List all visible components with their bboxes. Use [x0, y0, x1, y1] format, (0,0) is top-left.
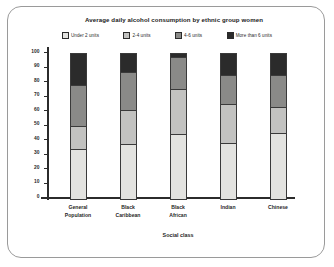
bar-segment[interactable]	[171, 58, 186, 90]
stacked-bar[interactable]	[170, 53, 187, 200]
chart-title: Average daily alcohol consumption by eth…	[0, 16, 334, 23]
bar-segment[interactable]	[221, 54, 236, 76]
bar-segment[interactable]	[171, 135, 186, 199]
legend-label: More than 6 units	[236, 33, 272, 38]
legend-item[interactable]: More than 6 units	[227, 32, 272, 39]
stacked-bar[interactable]	[220, 53, 237, 200]
legend-item[interactable]: 2-4 units	[123, 32, 150, 39]
chart-legend: Under 2 units2-4 units4-6 unitsMore than…	[62, 30, 272, 41]
y-axis-tick: 70	[44, 96, 48, 97]
y-axis-tick: 60	[44, 110, 48, 111]
y-axis-tick: 10	[44, 183, 48, 184]
x-axis-category-label-line: Population	[50, 212, 106, 220]
x-axis-category-label-line: Black	[150, 204, 206, 212]
bar-segment[interactable]	[71, 150, 86, 199]
legend-label: 4-6 units	[184, 33, 202, 38]
y-axis-line	[47, 47, 49, 200]
bar-segment[interactable]	[71, 54, 86, 86]
bar-segment[interactable]	[221, 105, 236, 144]
bar-segment[interactable]	[121, 111, 136, 146]
bar-segment[interactable]	[221, 144, 236, 199]
bar-segment[interactable]	[71, 127, 86, 150]
x-axis-category-label-line: Indian	[200, 204, 256, 212]
bar-segment[interactable]	[271, 76, 286, 108]
bar-segment[interactable]	[271, 54, 286, 76]
x-axis-category-label-line: Chinese	[250, 204, 306, 212]
legend-swatch-icon	[227, 32, 234, 39]
x-axis-category-label: GeneralPopulation	[50, 204, 106, 219]
legend-swatch-icon	[62, 32, 69, 39]
y-axis-tick-label: 100	[31, 49, 39, 54]
y-axis-tick: 100	[44, 52, 48, 53]
bar-segment[interactable]	[221, 76, 236, 105]
legend-label: Under 2 units	[71, 33, 99, 38]
x-axis-category-label: BlackAfrican	[150, 204, 206, 219]
y-axis-tick-label: 80	[34, 78, 39, 83]
x-axis-category-label-line: Black	[100, 204, 156, 212]
y-axis-tick: 40	[44, 139, 48, 140]
y-axis-tick-label: 20	[34, 165, 39, 170]
legend-item[interactable]: Under 2 units	[62, 32, 99, 39]
y-axis-tick-label: 10	[34, 179, 39, 184]
y-axis-tick-label: 50	[34, 121, 39, 126]
x-axis-category-label: Chinese	[250, 204, 306, 212]
y-axis-tick: 50	[44, 125, 48, 126]
chart-figure: Average daily alcohol consumption by eth…	[0, 0, 334, 267]
x-axis-title: Social class	[0, 232, 334, 238]
x-axis-category-label: BlackCaribbean	[100, 204, 156, 219]
stacked-bar[interactable]	[270, 53, 287, 200]
legend-swatch-icon	[123, 32, 130, 39]
y-axis-tick: 30	[44, 154, 48, 155]
y-axis-tick: 20	[44, 168, 48, 169]
y-axis-tick: 0	[44, 197, 48, 198]
x-axis-category-label-line: African	[150, 212, 206, 220]
x-axis-category-label: Indian	[200, 204, 256, 212]
x-axis-category-label-line: General	[50, 204, 106, 212]
bar-segment[interactable]	[121, 73, 136, 111]
y-axis-tick: 80	[44, 81, 48, 82]
legend-swatch-icon	[175, 32, 182, 39]
y-axis-tick-label: 30	[34, 150, 39, 155]
legend-label: 2-4 units	[132, 33, 150, 38]
legend-item[interactable]: 4-6 units	[175, 32, 202, 39]
y-axis-tick-label: 90	[34, 63, 39, 68]
bar-segment[interactable]	[271, 108, 286, 134]
y-axis-tick-label: 40	[34, 136, 39, 141]
bar-segment[interactable]	[271, 134, 286, 199]
bar-segment[interactable]	[121, 54, 136, 73]
plot-area: 1009080706050403020100GeneralPopulationB…	[47, 52, 297, 200]
stacked-bar[interactable]	[70, 53, 87, 200]
y-axis-tick-label: 60	[34, 107, 39, 112]
y-axis-tick-label: 70	[34, 92, 39, 97]
x-axis-category-label-line: Caribbean	[100, 212, 156, 220]
y-axis-tick: 90	[44, 67, 48, 68]
stacked-bar[interactable]	[120, 53, 137, 200]
bar-segment[interactable]	[71, 86, 86, 127]
bar-segment[interactable]	[121, 145, 136, 199]
y-axis-tick-label: 0	[37, 194, 40, 199]
bar-segment[interactable]	[171, 90, 186, 135]
